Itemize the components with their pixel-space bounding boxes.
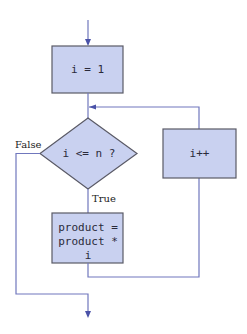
body-node-line-3: i: [85, 249, 92, 262]
flowchart: i = 1 i <= n ? False True product = prod…: [0, 0, 247, 334]
body-node: product = product * i: [52, 213, 123, 263]
body-node-line-1: product =: [58, 221, 118, 234]
arrow-left-icon: [89, 105, 96, 110]
arrow-down-icon: [85, 39, 91, 46]
condition-node-label: i <= n ?: [63, 147, 116, 160]
condition-node: i <= n ?: [40, 118, 137, 189]
entry-edge: [85, 20, 91, 46]
increment-node-label: i++: [190, 147, 210, 160]
arrow-down-icon: [85, 311, 91, 318]
body-node-line-2: product *: [58, 235, 118, 248]
init-node-label: i = 1: [71, 63, 104, 76]
false-label: False: [15, 139, 42, 150]
init-node: i = 1: [52, 46, 123, 93]
increment-node: i++: [163, 129, 236, 178]
true-edge: True: [88, 189, 116, 213]
true-label: True: [92, 193, 116, 204]
loop-back-edge: [89, 105, 199, 130]
